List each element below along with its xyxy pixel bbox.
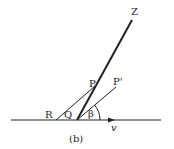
angle-beta-arc (95, 105, 101, 120)
label-P-prime: P' (113, 76, 122, 87)
label-v: v (111, 122, 117, 133)
line-QP-prime (77, 87, 116, 120)
label-beta: β (88, 108, 94, 119)
label-Z: Z (131, 6, 138, 17)
label-R: R (45, 109, 53, 120)
label-P: P (89, 78, 96, 89)
diagram-canvas: Z P P' R Q β v (b) (0, 0, 174, 149)
thick-line-QZ (77, 20, 132, 120)
label-Q: Q (64, 109, 72, 120)
caption: (b) (69, 133, 83, 144)
